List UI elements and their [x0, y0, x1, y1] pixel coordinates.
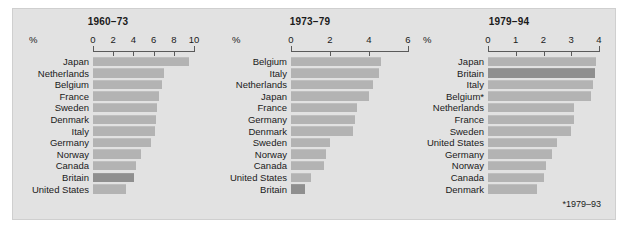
bar-row: Denmark: [93, 114, 194, 126]
bar-row: Japan: [488, 56, 599, 68]
bar-category-label: Netherlands: [236, 79, 287, 90]
x-axis-tick: [599, 46, 600, 52]
bar-rows: JapanNetherlandsBelgiumFranceSwedenDenma…: [93, 56, 194, 195]
chart-panel-1979-94: 1979–94 % 01234 JapanBritainItalyBelgium…: [416, 9, 615, 221]
bar-row: Sweden: [488, 126, 599, 138]
bar: [488, 126, 571, 135]
panel-title: 1960–73: [13, 16, 203, 27]
bar-category-label: Belgium*: [446, 91, 484, 102]
bar-category-label: Netherlands: [433, 102, 484, 113]
bar: [488, 80, 593, 89]
x-axis: 0246810: [93, 34, 194, 56]
bar-row: Japan: [291, 91, 408, 103]
bar-row: Canada: [488, 172, 599, 184]
bar-row: France: [291, 102, 408, 114]
bar-category-label: Sweden: [55, 102, 89, 113]
bar-row: Britain: [291, 184, 408, 196]
chart-footnote: *1979–93: [562, 199, 601, 209]
bar-row: France: [488, 114, 599, 126]
bar-rows: BelgiumItalyNetherlandsJapanFranceGerman…: [291, 56, 408, 195]
x-axis-tick: [488, 46, 489, 52]
bar: [488, 184, 537, 193]
x-axis-tick: [194, 46, 195, 52]
bar-category-label: United States: [230, 172, 287, 183]
bar-row: Netherlands: [291, 79, 408, 91]
x-axis-tick: [93, 46, 94, 52]
bar: [291, 91, 369, 100]
bar-category-label: Sweden: [253, 137, 287, 148]
bar-category-label: France: [454, 114, 484, 125]
bar: [291, 68, 379, 77]
bar: [93, 149, 141, 158]
percent-axis-label: %: [232, 34, 240, 45]
bar-row: Italy: [488, 79, 599, 91]
bar: [488, 115, 574, 124]
x-axis-line: [291, 51, 408, 52]
bar-row: Germany: [93, 137, 194, 149]
bar-row: Belgium*: [488, 91, 599, 103]
chart-figure: 1960–73 % 0246810 JapanNetherlandsBelgiu…: [0, 0, 628, 232]
bar-category-label: Norway: [255, 149, 287, 160]
bar: [93, 115, 156, 124]
x-axis-tick-label: 0: [476, 34, 500, 45]
bar-highlighted: [488, 68, 595, 77]
bar-category-label: Netherlands: [38, 68, 89, 79]
panel-title: 1979–94: [416, 16, 602, 27]
bar-row: Canada: [93, 160, 194, 172]
bar-row: Norway: [488, 160, 599, 172]
chart-panel-1960-73: 1960–73 % 0246810 JapanNetherlandsBelgiu…: [13, 9, 216, 221]
panel-title: 1973–79: [216, 16, 404, 27]
bar: [291, 115, 355, 124]
bar-row: Sweden: [93, 102, 194, 114]
bar-rows: JapanBritainItalyBelgium*NetherlandsFran…: [488, 56, 599, 195]
bar: [93, 103, 157, 112]
x-axis-tick-label: 2: [318, 34, 342, 45]
bar-category-label: Britain: [457, 68, 484, 79]
bar-highlighted: [93, 173, 134, 182]
bar-row: United States: [291, 172, 408, 184]
bar: [291, 173, 311, 182]
bar: [488, 57, 596, 66]
bar-category-label: France: [59, 91, 89, 102]
bar-category-label: Japan: [63, 56, 89, 67]
x-axis-tick-label: 4: [357, 34, 381, 45]
bar-category-label: Canada: [254, 160, 287, 171]
bar-row: Denmark: [488, 184, 599, 196]
bar-category-label: Norway: [57, 149, 89, 160]
chart-panel-1973-79: 1973–79 % 0246 BelgiumItalyNetherlandsJa…: [216, 9, 416, 221]
chart-plate: 1960–73 % 0246810 JapanNetherlandsBelgiu…: [12, 8, 616, 220]
x-axis-tick-label: 3: [559, 34, 583, 45]
bar: [93, 184, 126, 193]
bar-row: Netherlands: [488, 102, 599, 114]
bar-category-label: Denmark: [248, 126, 287, 137]
bar-category-label: Belgium: [55, 79, 89, 90]
x-axis: 0246: [291, 34, 408, 56]
bar: [291, 80, 373, 89]
bar: [291, 57, 381, 66]
bar-row: United States: [488, 137, 599, 149]
bar-row: Japan: [93, 56, 194, 68]
bar: [93, 126, 155, 135]
bar-category-label: Sweden: [450, 126, 484, 137]
percent-axis-label: %: [29, 34, 37, 45]
bar: [291, 138, 330, 147]
bar-category-label: United States: [32, 184, 89, 195]
bar-category-label: Italy: [72, 126, 89, 137]
bar: [291, 126, 353, 135]
bar-category-label: Belgium: [253, 56, 287, 67]
x-axis-tick: [408, 46, 409, 52]
x-axis-tick-label: 1: [504, 34, 528, 45]
bar-row: Sweden: [291, 137, 408, 149]
bar-row: Belgium: [291, 56, 408, 68]
bar-row: France: [93, 91, 194, 103]
bar-row: Germany: [291, 114, 408, 126]
x-axis-tick-label: 4: [587, 34, 611, 45]
bar: [488, 91, 591, 100]
bar-category-label: United States: [427, 137, 484, 148]
bar: [291, 103, 357, 112]
bar: [291, 149, 326, 158]
bar: [488, 161, 546, 170]
bar-row: Britain: [488, 68, 599, 80]
bar-category-label: Germany: [445, 149, 484, 160]
bar-row: Italy: [93, 126, 194, 138]
